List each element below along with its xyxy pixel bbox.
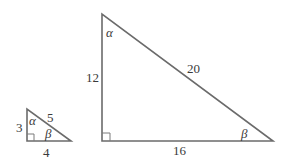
large-beta-label: β [240, 126, 248, 141]
small-alpha-label: α [29, 113, 37, 128]
large-triangle-outline [102, 14, 273, 141]
small-triangle: 3 5 4 α β [16, 109, 71, 160]
small-horizontal-leg-label: 4 [43, 145, 50, 160]
large-right-angle-marker [102, 133, 110, 141]
large-alpha-label: α [106, 25, 114, 40]
large-horizontal-leg-label: 16 [173, 143, 187, 158]
small-right-angle-marker [27, 134, 34, 141]
small-vertical-leg-label: 3 [16, 120, 23, 135]
small-hypotenuse-label: 5 [47, 110, 54, 125]
large-hypotenuse-label: 20 [187, 61, 200, 76]
similar-triangles-diagram: 3 5 4 α β 12 20 16 α β [0, 0, 287, 163]
large-triangle: 12 20 16 α β [86, 14, 273, 158]
small-beta-label: β [44, 126, 52, 141]
large-vertical-leg-label: 12 [86, 70, 99, 85]
